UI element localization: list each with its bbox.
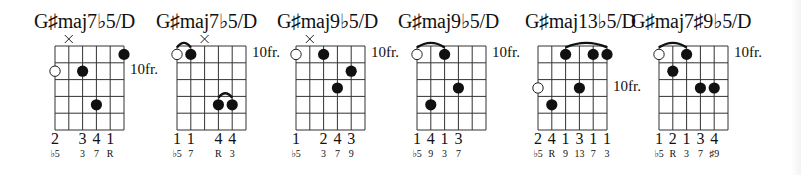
finger-dot (709, 82, 720, 93)
finger-number: 1 (680, 130, 694, 148)
finger-number: 1 (652, 130, 666, 148)
finger-number: 3 (693, 130, 707, 148)
page-edge-shadow (791, 0, 801, 175)
finger-dot (667, 66, 678, 77)
interval-degree: ♯9 (706, 148, 722, 159)
open-note-marker (654, 49, 664, 59)
fret-position-label: 10fr. (734, 44, 762, 61)
finger-number: 2 (666, 130, 680, 148)
finger-dot (695, 82, 706, 93)
finger-number: 4 (707, 130, 721, 148)
finger-dot (681, 49, 692, 60)
